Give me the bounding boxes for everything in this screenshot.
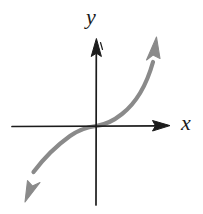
curve-arrowhead-down-left [25, 181, 40, 203]
y-axis-arrow-tick [101, 43, 103, 50]
y-axis-group [91, 39, 102, 206]
x-axis-label: x [181, 112, 191, 134]
y-axis-label: y [86, 6, 96, 28]
curve-group [25, 37, 160, 202]
x-axis-arrowhead [153, 121, 171, 132]
y-axis-arrowhead [91, 39, 101, 57]
x-axis-group [12, 121, 170, 132]
cubic-curve-path [34, 62, 154, 172]
graph-canvas [0, 0, 203, 214]
x-axis-line [12, 126, 160, 127]
curve-arrowhead-up-right [147, 37, 161, 60]
graph-figure: y x [0, 0, 203, 214]
